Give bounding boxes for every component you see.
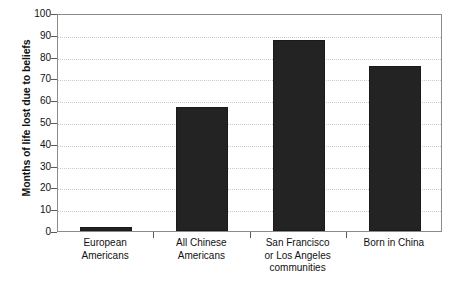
x-axis-category-label: Born in China: [346, 237, 442, 250]
x-axis-category-label-line: Americans: [57, 250, 153, 263]
y-tick-label: 60: [5, 96, 51, 106]
y-tick-label: 0: [5, 227, 51, 237]
y-tick-label: 40: [5, 140, 51, 150]
y-tick-label: 30: [5, 162, 51, 172]
bar: [273, 40, 325, 231]
x-axis-category-label-line: or Los Angeles: [250, 250, 346, 263]
bar: [176, 107, 228, 231]
bar-chart: Months of life lost due to beliefs 10090…: [0, 0, 458, 289]
y-tick-mark: [51, 232, 57, 233]
plot-area: [57, 14, 442, 232]
x-axis-category-label-line: Born in China: [346, 237, 442, 250]
x-axis-category-label: All ChineseAmericans: [153, 237, 249, 262]
y-tick-label: 80: [5, 53, 51, 63]
bar: [369, 66, 421, 231]
y-axis-ticks: 1009080706050403020100: [0, 14, 51, 232]
bar: [80, 227, 132, 231]
y-tick-label: 50: [5, 118, 51, 128]
x-axis-category-label-line: Americans: [153, 250, 249, 263]
x-axis-category-label: EuropeanAmericans: [57, 237, 153, 262]
x-axis-category-label-line: communities: [250, 262, 346, 275]
x-axis-category-label: San Franciscoor Los Angelescommunities: [250, 237, 346, 275]
gridline: [58, 37, 441, 38]
y-tick-label: 100: [5, 9, 51, 19]
y-tick-label: 10: [5, 205, 51, 215]
gridline: [58, 59, 441, 60]
y-tick-label: 70: [5, 74, 51, 84]
x-axis-category-label-line: San Francisco: [250, 237, 346, 250]
x-axis-category-label-line: European: [57, 237, 153, 250]
y-tick-label: 90: [5, 31, 51, 41]
x-axis-labels: EuropeanAmericansAll ChineseAmericansSan…: [57, 237, 442, 285]
y-tick-label: 20: [5, 183, 51, 193]
x-axis-category-label-line: All Chinese: [153, 237, 249, 250]
